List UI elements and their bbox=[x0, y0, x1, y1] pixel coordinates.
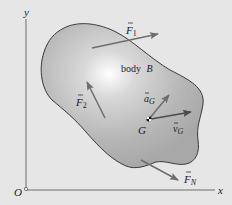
rigid-body-diagram: y x O body B F1 F2 aG vG G FN bbox=[0, 0, 232, 205]
origin-marker bbox=[24, 187, 27, 190]
center-of-mass-marker bbox=[146, 116, 151, 121]
fn-label: FN bbox=[183, 173, 197, 187]
body-label: body B bbox=[121, 63, 153, 74]
x-axis-label: x bbox=[217, 184, 223, 196]
y-axis-label: y bbox=[23, 6, 29, 18]
origin-label: O bbox=[14, 186, 22, 198]
body-b-shape bbox=[41, 24, 203, 168]
g-label: G bbox=[138, 124, 146, 136]
f1-label: F1 bbox=[125, 24, 137, 38]
